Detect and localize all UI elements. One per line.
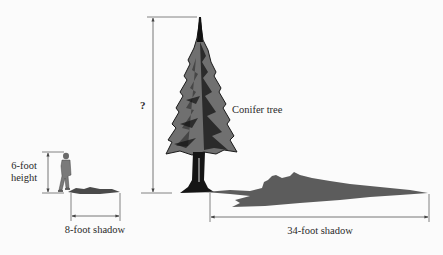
tree-shadow-label: 34-foot shadow: [278, 225, 362, 237]
person-height-label: 6-foot height: [2, 160, 46, 184]
conifer-tree: [166, 17, 237, 193]
person-shadow-label: 8-foot shadow: [64, 224, 126, 236]
conifer-tree-label: Conifer tree: [232, 104, 282, 116]
tree-height-unknown-label: ?: [140, 99, 146, 111]
tree-shadow: [205, 172, 428, 207]
person-shadow: [68, 187, 120, 194]
person-shadow-dimension: [71, 193, 120, 221]
shadow-diagram: [0, 0, 443, 255]
person-figure: [58, 153, 71, 191]
person-height-label-line1: 6-foot: [2, 160, 46, 172]
person-height-label-line2: height: [2, 172, 46, 184]
